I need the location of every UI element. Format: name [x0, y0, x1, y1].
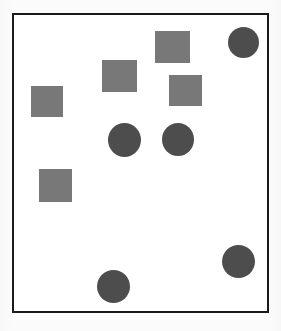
square-marker: [102, 60, 137, 92]
diagram-frame: [12, 13, 269, 313]
square-marker: [31, 86, 63, 117]
square-marker: [155, 31, 190, 63]
square-marker: [169, 75, 202, 106]
circle-marker: [97, 270, 130, 303]
shape-diagram-canvas: [0, 0, 281, 331]
circle-marker: [162, 123, 194, 156]
circle-marker: [228, 27, 259, 58]
circle-marker: [108, 123, 141, 157]
square-marker: [39, 169, 72, 202]
circle-marker: [222, 245, 255, 278]
